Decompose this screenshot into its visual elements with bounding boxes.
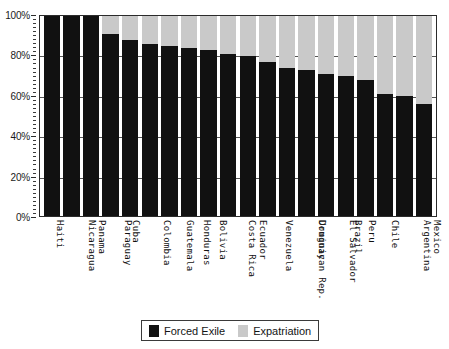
bar-column[interactable]	[357, 16, 373, 216]
y-axis-minor-tick	[33, 84, 36, 85]
y-axis-minor-tick	[33, 189, 36, 190]
y-axis-tick-label: 100%	[5, 10, 30, 21]
bar-segment-forced-exile[interactable]	[161, 46, 177, 216]
bar-segment-forced-exile[interactable]	[279, 68, 295, 216]
y-axis-minor-tick	[33, 132, 36, 133]
bar-segment-forced-exile[interactable]	[122, 40, 138, 216]
x-axis-tick: Paraguay	[102, 218, 119, 313]
bar-segment-forced-exile[interactable]	[102, 34, 118, 216]
bar-column[interactable]	[220, 16, 236, 216]
x-axis-tick: Haiti	[43, 218, 60, 313]
bar-segment-expatriation[interactable]	[122, 16, 138, 40]
bar-segment-forced-exile[interactable]	[142, 44, 158, 216]
bar-segment-forced-exile[interactable]	[338, 76, 354, 216]
bar-segment-expatriation[interactable]	[142, 16, 158, 44]
y-axis-minor-tick	[33, 181, 36, 182]
y-axis-minor-tick	[33, 51, 36, 52]
bar-column[interactable]	[416, 16, 432, 216]
chart-legend: Forced ExileExpatriation	[141, 320, 319, 341]
bar-segment-expatriation[interactable]	[181, 16, 197, 48]
bar-segment-forced-exile[interactable]	[240, 56, 256, 216]
bar-column[interactable]	[298, 16, 314, 216]
legend-label: Forced Exile	[164, 325, 225, 337]
bar-column[interactable]	[102, 16, 118, 216]
bar-segment-expatriation[interactable]	[357, 16, 373, 80]
legend-entry[interactable]: Forced Exile	[149, 325, 225, 337]
bar-segment-forced-exile[interactable]	[318, 74, 334, 216]
bar-segment-forced-exile[interactable]	[396, 96, 412, 216]
y-axis-minor-tick	[33, 43, 36, 44]
legend-label: Expatriation	[253, 325, 311, 337]
bar-segment-forced-exile[interactable]	[181, 48, 197, 216]
bar-column[interactable]	[142, 16, 158, 216]
y-axis-minor-tick	[33, 23, 36, 24]
bar-segment-forced-exile[interactable]	[83, 16, 99, 216]
x-axis-tick: Mexico	[417, 218, 434, 313]
y-axis-minor-tick	[33, 209, 36, 210]
bar-column[interactable]	[259, 16, 275, 216]
bar-column[interactable]	[122, 16, 138, 216]
bar-column[interactable]	[161, 16, 177, 216]
bar-segment-forced-exile[interactable]	[377, 94, 393, 216]
bar-segment-forced-exile[interactable]	[416, 104, 432, 216]
y-axis-minor-tick	[33, 148, 36, 149]
y-axis-major-tick	[31, 55, 36, 56]
bar-segment-forced-exile[interactable]	[357, 80, 373, 216]
y-axis-tick-label: 80%	[11, 50, 30, 61]
bar-segment-expatriation[interactable]	[377, 16, 393, 94]
bar-column[interactable]	[63, 16, 79, 216]
bar-segment-expatriation[interactable]	[102, 16, 118, 34]
x-axis-tick: Argentina	[397, 218, 414, 313]
bar-column[interactable]	[338, 16, 354, 216]
bar-column[interactable]	[377, 16, 393, 216]
bar-segment-expatriation[interactable]	[161, 16, 177, 46]
bar-segment-expatriation[interactable]	[259, 16, 275, 62]
bar-column[interactable]	[83, 16, 99, 216]
bar-segment-forced-exile[interactable]	[298, 70, 314, 216]
bar-segment-expatriation[interactable]	[279, 16, 295, 68]
y-axis-minor-tick	[33, 108, 36, 109]
bar-column[interactable]	[240, 16, 256, 216]
x-axis-tick: Uruguay	[299, 218, 316, 313]
y-axis-minor-tick	[33, 164, 36, 165]
y-axis-minor-tick	[33, 169, 36, 170]
bar-segment-forced-exile[interactable]	[259, 62, 275, 216]
y-axis-major-tick	[31, 217, 36, 218]
bar-segment-expatriation[interactable]	[220, 16, 236, 54]
bar-segment-expatriation[interactable]	[298, 16, 314, 70]
bar-segment-expatriation[interactable]	[318, 16, 334, 74]
y-axis-minor-tick	[33, 76, 36, 77]
bar-segment-expatriation[interactable]	[240, 16, 256, 56]
y-axis-minor-tick	[33, 173, 36, 174]
bar-column[interactable]	[279, 16, 295, 216]
y-axis-tick-label: 40%	[11, 131, 30, 142]
bar-segment-forced-exile[interactable]	[220, 54, 236, 216]
y-axis-major-tick	[31, 136, 36, 137]
legend-entry[interactable]: Expatriation	[238, 325, 311, 337]
bar-segment-expatriation[interactable]	[416, 16, 432, 104]
bar-segment-expatriation[interactable]	[396, 16, 412, 96]
bar-column[interactable]	[200, 16, 216, 216]
bar-segment-forced-exile[interactable]	[44, 16, 60, 216]
y-axis-tick-label: 20%	[11, 171, 30, 182]
y-axis-minor-tick	[33, 193, 36, 194]
bar-segment-forced-exile[interactable]	[200, 50, 216, 216]
y-axis-minor-tick	[33, 19, 36, 20]
y-axis-minor-tick	[33, 47, 36, 48]
y-axis-major-tick	[31, 177, 36, 178]
bar-column[interactable]	[181, 16, 197, 216]
bar-column[interactable]	[318, 16, 334, 216]
bar-column[interactable]	[44, 16, 60, 216]
bar-column[interactable]	[396, 16, 412, 216]
bar-segment-forced-exile[interactable]	[63, 16, 79, 216]
y-axis-minor-tick	[33, 31, 36, 32]
y-axis-minor-tick	[33, 35, 36, 36]
y-axis-minor-tick	[33, 160, 36, 161]
x-axis-tick-label: Peru	[368, 220, 378, 243]
x-axis-tick: Venezuela	[259, 218, 276, 313]
x-axis-tick: Guatemala	[161, 218, 178, 313]
bar-segment-expatriation[interactable]	[338, 16, 354, 76]
bar-segment-expatriation[interactable]	[200, 16, 216, 50]
y-axis: 0%20%40%60%80%100%	[0, 15, 36, 217]
x-axis-tick: Cuba	[121, 218, 138, 313]
